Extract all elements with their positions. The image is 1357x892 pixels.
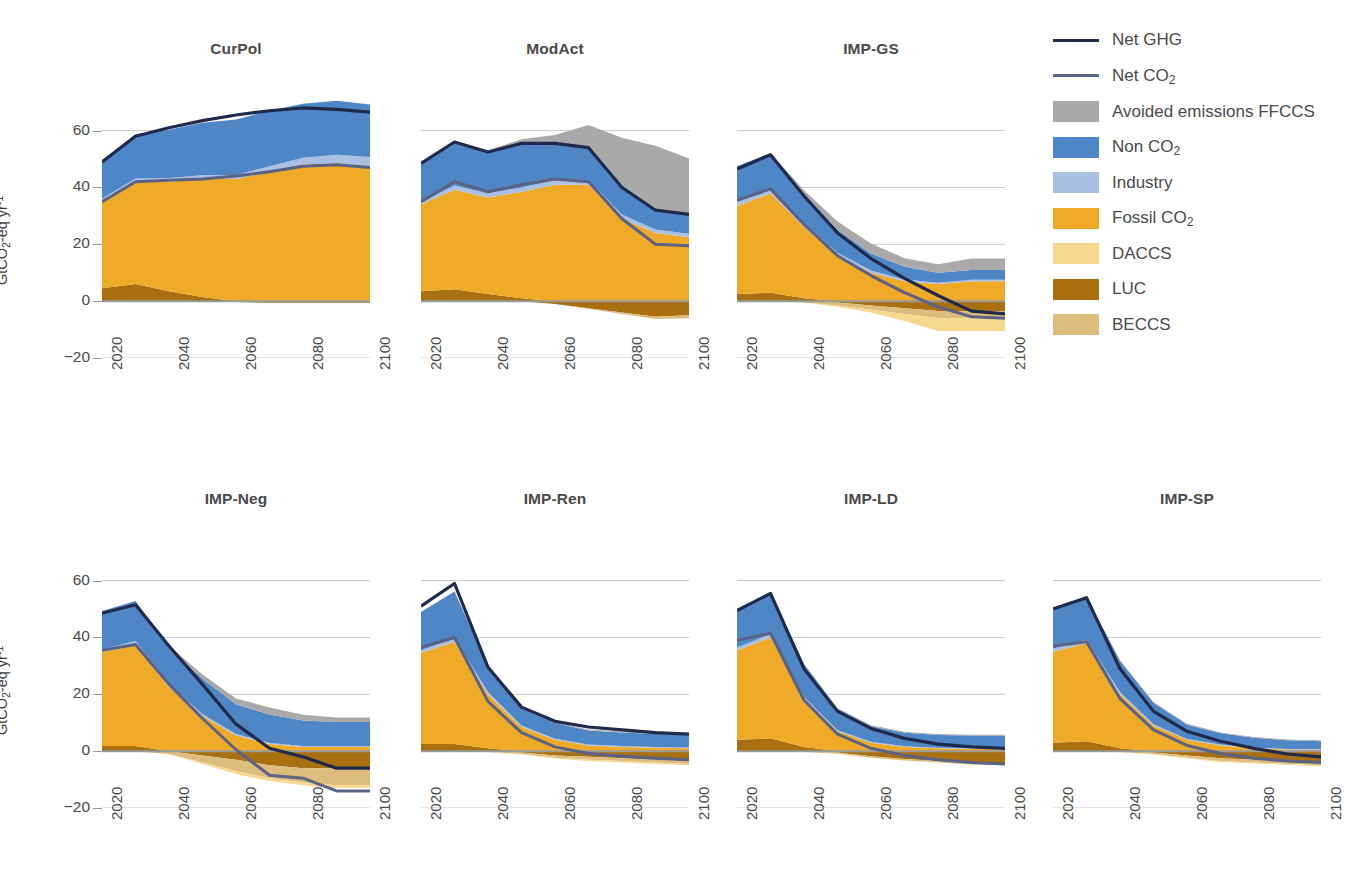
x-tick-label: 2080 (628, 787, 645, 820)
panel-title: IMP-Ren (421, 490, 689, 508)
y-tick-label: 0 (24, 291, 90, 309)
emissions-pathways-figure: CurPol20202040206020802100ModAct20202040… (0, 0, 1357, 892)
x-tick-label: 2100 (1327, 787, 1344, 820)
area-fossil-co2 (102, 163, 370, 301)
x-tick-label: 2060 (561, 337, 578, 370)
y-tick-mark (93, 301, 102, 302)
x-tick-label: 2060 (877, 337, 894, 370)
legend-label: Avoided emissions FFCCS (1112, 102, 1315, 122)
y-tick-label: −20 (24, 348, 90, 366)
panel-imp-neg: IMP-Neg (102, 538, 370, 808)
legend-item-fossil-co2[interactable]: Fossil CO2 (1053, 208, 1193, 229)
x-tick-label: 2040 (810, 787, 827, 820)
x-tick-label: 2020 (108, 787, 125, 820)
y-tick-mark (93, 187, 102, 188)
x-tick-label: 2080 (944, 337, 961, 370)
x-tick-label: 2040 (1126, 787, 1143, 820)
legend-color-swatch (1053, 243, 1099, 264)
y-tick-mark (93, 131, 102, 132)
x-tick-label: 2040 (175, 787, 192, 820)
legend-color-swatch (1053, 137, 1099, 158)
plot-area (421, 538, 689, 808)
y-tick-mark (93, 751, 102, 752)
y-tick-mark (93, 358, 102, 359)
panel-imp-sp: IMP-SP (1053, 538, 1321, 808)
plot-area (1053, 538, 1321, 808)
panel-title: CurPol (102, 40, 370, 58)
x-tick-label: 2040 (175, 337, 192, 370)
plot-area (421, 88, 689, 358)
y-tick-label: 60 (24, 121, 90, 139)
legend-label: Net CO2 (1112, 66, 1176, 87)
y-axis-label: GtCO2-eq yr-1 (0, 646, 12, 735)
legend-color-swatch (1053, 279, 1099, 300)
legend-label: Non CO2 (1112, 137, 1180, 158)
x-tick-label: 2100 (376, 337, 393, 370)
y-tick-label: 40 (24, 627, 90, 645)
legend-label: BECCS (1112, 315, 1171, 335)
y-tick-mark (93, 694, 102, 695)
panel-modact: ModAct (421, 88, 689, 358)
legend-line-swatch (1053, 74, 1099, 77)
x-tick-label: 2040 (494, 337, 511, 370)
x-tick-label: 2100 (1011, 337, 1028, 370)
legend-line-swatch (1053, 39, 1099, 42)
x-tick-label: 2060 (242, 337, 259, 370)
panel-curpol: CurPol (102, 88, 370, 358)
x-tick-label: 2060 (561, 787, 578, 820)
x-tick-label: 2080 (309, 337, 326, 370)
x-tick-label: 2080 (944, 787, 961, 820)
x-tick-label: 2100 (1011, 787, 1028, 820)
x-tick-label: 2080 (628, 337, 645, 370)
legend-label: Net GHG (1112, 30, 1182, 50)
panel-imp-ld: IMP-LD (737, 538, 1005, 808)
y-tick-label: −20 (24, 798, 90, 816)
x-tick-label: 2060 (242, 787, 259, 820)
legend-item-daccs[interactable]: DACCS (1053, 243, 1172, 264)
panel-title: IMP-SP (1053, 490, 1321, 508)
x-tick-label: 2080 (1260, 787, 1277, 820)
x-tick-label: 2020 (743, 337, 760, 370)
x-tick-label: 2040 (494, 787, 511, 820)
legend-label: LUC (1112, 279, 1146, 299)
legend-item-net-co2[interactable]: Net CO2 (1053, 66, 1176, 87)
x-tick-label: 2020 (427, 337, 444, 370)
y-tick-mark (93, 244, 102, 245)
legend-color-swatch (1053, 314, 1099, 335)
legend-label: DACCS (1112, 244, 1172, 264)
legend-item-non-co2[interactable]: Non CO2 (1053, 137, 1180, 158)
x-tick-label: 2020 (1059, 787, 1076, 820)
panel-imp-gs: IMP-GS (737, 88, 1005, 358)
x-tick-label: 2020 (743, 787, 760, 820)
plot-area (737, 88, 1005, 358)
x-tick-label: 2100 (376, 787, 393, 820)
y-tick-label: 40 (24, 177, 90, 195)
y-axis-label: GtCO2-eq yr-1 (0, 196, 12, 285)
legend-item-avoided-emissions-ffccs[interactable]: Avoided emissions FFCCS (1053, 101, 1315, 122)
y-tick-mark (93, 808, 102, 809)
x-tick-label: 2060 (1193, 787, 1210, 820)
plot-area (102, 88, 370, 358)
legend-color-swatch (1053, 208, 1099, 229)
panel-title: IMP-LD (737, 490, 1005, 508)
x-tick-label: 2020 (108, 337, 125, 370)
legend-item-industry[interactable]: Industry (1053, 172, 1172, 193)
legend-label: Fossil CO2 (1112, 208, 1193, 229)
y-tick-label: 0 (24, 741, 90, 759)
legend-color-swatch (1053, 101, 1099, 122)
y-tick-mark (93, 637, 102, 638)
x-tick-label: 2100 (695, 337, 712, 370)
x-tick-label: 2040 (810, 337, 827, 370)
plot-area (102, 538, 370, 808)
panel-title: IMP-Neg (102, 490, 370, 508)
legend-item-net-ghg[interactable]: Net GHG (1053, 30, 1182, 50)
panel-title: IMP-GS (737, 40, 1005, 58)
legend-item-luc[interactable]: LUC (1053, 279, 1146, 300)
panel-title: ModAct (421, 40, 689, 58)
legend-item-beccs[interactable]: BECCS (1053, 314, 1171, 335)
x-tick-label: 2020 (427, 787, 444, 820)
area-neg-luc (421, 301, 689, 317)
legend-color-swatch (1053, 172, 1099, 193)
panel-imp-ren: IMP-Ren (421, 538, 689, 808)
y-tick-label: 60 (24, 571, 90, 589)
